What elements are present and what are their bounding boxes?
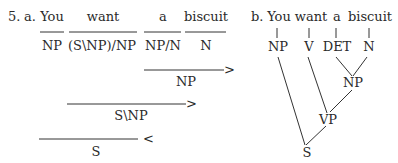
result-vp: S\NP [114, 109, 147, 123]
category-noun: N [200, 39, 211, 53]
tree-node-vp: VP [319, 113, 337, 127]
part-b-label: b. [251, 10, 263, 24]
tree-word-want: want [295, 10, 327, 24]
word-you: You [40, 10, 64, 24]
category-transitive-verb: (S\NP)/NP [68, 39, 136, 53]
word-a: a [159, 10, 167, 24]
rule-backward: < [143, 132, 154, 146]
tree-node-np-object: NP [343, 76, 363, 90]
example-number: 5. [8, 10, 20, 24]
tree-word-you: You [267, 10, 291, 24]
result-np: NP [176, 75, 196, 89]
tree-word-a: a [333, 10, 341, 24]
word-biscuit: biscuit [184, 10, 228, 24]
category-np: NP [42, 39, 62, 53]
rule-forward-2: > [186, 97, 197, 111]
category-determiner: NP/N [145, 39, 181, 53]
result-s: S [92, 145, 101, 159]
rule-forward-1: > [224, 63, 235, 77]
tree-word-biscuit: biscuit [348, 10, 392, 24]
tree-node-det: DET [323, 40, 352, 54]
tree-node-s: S [303, 146, 312, 160]
part-a-label: a. [24, 10, 36, 24]
word-want: want [87, 10, 119, 24]
tree-node-v: V [304, 40, 313, 54]
tree-node-np-subject: NP [268, 40, 288, 54]
tree-node-n: N [363, 40, 374, 54]
diagram-lines [0, 0, 398, 163]
